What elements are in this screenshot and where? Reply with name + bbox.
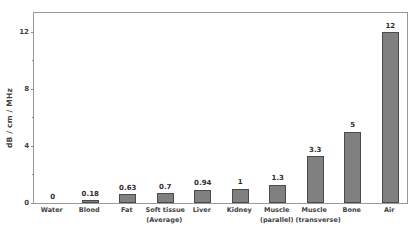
bar-value-label: 0.7 (159, 183, 171, 192)
y-tick-label: 4 (24, 141, 29, 151)
x-label-line1: Blood (79, 206, 100, 214)
x-label-line1: Soft tissue (146, 206, 185, 214)
bar-value-label: 0.94 (194, 179, 211, 188)
x-label-line1: Liver (193, 206, 211, 214)
x-label-soft-tissue-average: Soft tissue(Average) (146, 206, 184, 225)
x-label-line1: Air (384, 206, 394, 214)
attenuation-bar-chart: dB / cm / MHz 04812 00.180.630.70.9411.3… (0, 0, 420, 236)
x-axis-labels: WaterBloodFatSoft tissue(Average)LiverKi… (33, 206, 408, 236)
x-label-kidney: Kidney (221, 206, 259, 216)
bar-air[interactable]: 12 (382, 13, 399, 203)
y-tick-label: 8 (24, 84, 29, 94)
bar-rect (119, 194, 136, 203)
x-label-air: Air (371, 206, 409, 216)
x-label-blood: Blood (71, 206, 109, 216)
y-tick-label: 0 (24, 198, 29, 208)
bar-kidney[interactable]: 1 (232, 13, 249, 203)
x-label-line2: (parallel) (258, 216, 296, 226)
x-label-line2: (transverse) (296, 216, 334, 226)
bar-value-label: 12 (385, 22, 395, 31)
x-label-water: Water (33, 206, 71, 216)
bar-value-label: 0 (50, 193, 55, 202)
bar-rect (307, 156, 324, 203)
bar-value-label: 0.63 (119, 184, 136, 193)
y-tick-label: 12 (19, 27, 29, 37)
bar-liver[interactable]: 0.94 (194, 13, 211, 203)
bar-blood[interactable]: 0.18 (82, 13, 99, 203)
x-label-muscle-transverse: Muscle(transverse) (296, 206, 334, 225)
bar-bone[interactable]: 5 (344, 13, 361, 203)
bar-rect (344, 132, 361, 203)
bar-value-label: 1 (238, 178, 243, 187)
bar-value-label: 3.3 (309, 146, 321, 155)
bar-rect (82, 200, 99, 203)
bar-rect (194, 190, 211, 203)
bar-rect (232, 189, 249, 203)
x-label-bone: Bone (333, 206, 371, 216)
bar-rect (382, 32, 399, 203)
x-label-line2: (Average) (146, 216, 184, 226)
x-label-line1: Fat (121, 206, 133, 214)
bar-rect (269, 185, 286, 203)
bar-muscle-parallel[interactable]: 1.3 (269, 13, 286, 203)
bar-value-label: 5 (350, 121, 355, 130)
bar-rect (157, 193, 174, 203)
x-label-line1: Bone (343, 206, 361, 214)
x-label-line1: Muscle (264, 206, 289, 214)
bar-water[interactable]: 0 (44, 13, 61, 203)
bar-soft-tissue-average[interactable]: 0.7 (157, 13, 174, 203)
x-label-line1: Kidney (227, 206, 252, 214)
bar-muscle-transverse[interactable]: 3.3 (307, 13, 324, 203)
x-label-line1: Water (41, 206, 63, 214)
plot-area: 04812 00.180.630.70.9411.33.3512 (33, 12, 408, 204)
x-label-liver: Liver (183, 206, 221, 216)
bars-layer: 00.180.630.70.9411.33.3512 (34, 13, 407, 203)
x-label-muscle-parallel: Muscle(parallel) (258, 206, 296, 225)
y-axis-title: dB / cm / MHz (0, 0, 18, 236)
bar-fat[interactable]: 0.63 (119, 13, 136, 203)
x-label-fat: Fat (108, 206, 146, 216)
bar-value-label: 1.3 (272, 174, 284, 183)
x-label-line1: Muscle (302, 206, 327, 214)
bar-value-label: 0.18 (82, 190, 99, 199)
